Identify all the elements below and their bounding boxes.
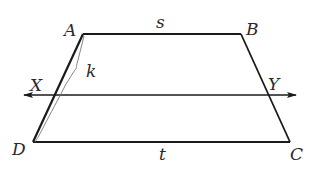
brace-k xyxy=(35,36,84,142)
side-label-t: t xyxy=(159,146,166,163)
point-label-Y: Y xyxy=(268,76,279,93)
vertex-label-A: A xyxy=(64,22,76,39)
brace-label-k: k xyxy=(86,63,96,80)
vertex-label-B: B xyxy=(246,21,259,38)
point-label-X: X xyxy=(30,77,42,94)
vertex-label-C: C xyxy=(290,146,303,163)
vertex-label-D: D xyxy=(12,141,26,158)
segment-BC xyxy=(241,34,290,142)
side-label-s: s xyxy=(156,14,165,31)
